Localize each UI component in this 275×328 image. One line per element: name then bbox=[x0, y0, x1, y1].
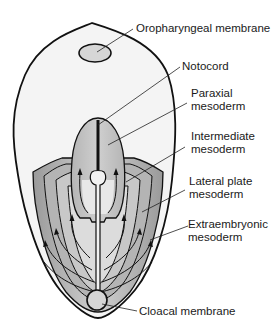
embryo-disc-illustration bbox=[0, 0, 275, 328]
cloacal-membrane bbox=[87, 290, 107, 310]
label-notocord: Notocord bbox=[182, 60, 229, 73]
oropharyngeal-membrane bbox=[79, 44, 111, 62]
label-oropharyngeal-membrane: Oropharyngeal membrane bbox=[136, 22, 270, 35]
label-intermediate-line1: Intermediate bbox=[191, 130, 255, 143]
label-cloacal-membrane: Cloacal membrane bbox=[139, 305, 236, 318]
label-paraxial-line1: Paraxial bbox=[191, 87, 233, 100]
label-paraxial-line2: mesoderm bbox=[191, 100, 245, 113]
label-intermediate-line2: mesoderm bbox=[191, 143, 245, 156]
mesoderm-diagram: Oropharyngeal membrane Notocord Paraxial… bbox=[0, 0, 275, 328]
label-extraembryonic-line2: mesoderm bbox=[188, 231, 242, 244]
label-lateral-plate-line1: Lateral plate bbox=[189, 175, 252, 188]
label-lateral-plate-line2: mesoderm bbox=[189, 188, 243, 201]
label-extraembryonic-line1: Extraembryonic bbox=[188, 218, 268, 231]
